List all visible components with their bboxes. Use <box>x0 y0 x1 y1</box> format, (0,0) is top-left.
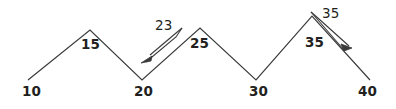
diagram-canvas: 15 25 35 23 35 10 20 30 40 <box>0 0 396 109</box>
segment-label-25: 25 <box>190 37 209 51</box>
arrow-label-23: 23 <box>155 19 173 33</box>
node-label-30: 30 <box>249 85 268 99</box>
segment-label-15: 15 <box>81 38 100 52</box>
arrow-label-35: 35 <box>322 7 340 21</box>
node-label-40: 40 <box>358 85 377 99</box>
node-label-10: 10 <box>22 85 41 99</box>
node-label-20: 20 <box>134 85 153 99</box>
segment-label-35: 35 <box>305 36 324 50</box>
annotation-arrow-23 <box>141 28 182 63</box>
